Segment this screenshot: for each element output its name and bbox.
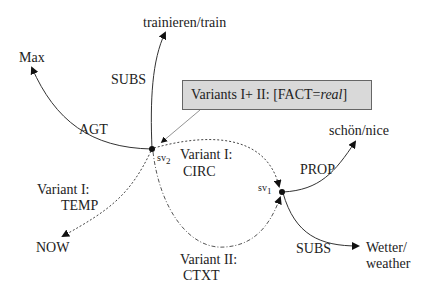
node-sv2	[149, 146, 155, 152]
node-weather-line2: weather	[366, 256, 410, 272]
edge-ctxt	[153, 152, 280, 247]
node-train: trainieren/train	[143, 15, 226, 31]
node-weather-line1: Wetter/	[366, 240, 407, 256]
edge-subs-train	[151, 33, 165, 149]
node-sv1	[279, 189, 285, 195]
node-sv2-label: sv2	[157, 150, 170, 169]
node-now: NOW	[36, 240, 69, 256]
edge-label-ctxt-1: Variant II:	[180, 252, 237, 268]
semantic-network-diagram: sv2 sv1 Max trainieren/train NOW schön/n…	[0, 0, 431, 295]
node-nice: schön/nice	[329, 123, 389, 139]
edge-label-temp-2: TEMP	[61, 198, 98, 214]
edge-label-temp-1: Variant I:	[37, 182, 89, 198]
edge-label-prop: PROP	[300, 162, 335, 178]
edge-label-subs-train: SUBS	[111, 72, 146, 88]
edge-label-circ-1: Variant I:	[180, 147, 232, 163]
edge-label-ctxt-2: CTXT	[183, 268, 220, 284]
edge-label-circ-2: CIRC	[183, 164, 216, 180]
edge-subs-weather	[283, 193, 358, 246]
edge-label-agt: AGT	[79, 122, 108, 138]
annotation-box: Variants I+ II: [FACT=real]	[182, 80, 372, 110]
edge-label-subs-weather: SUBS	[296, 241, 331, 257]
annotation-pointer	[162, 110, 200, 142]
node-sv1-label: sv1	[258, 180, 271, 199]
node-max: Max	[19, 50, 45, 66]
